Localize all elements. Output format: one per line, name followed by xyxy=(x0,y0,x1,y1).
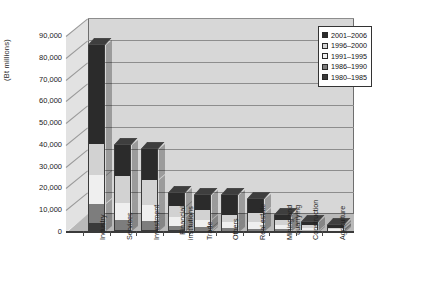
legend-label: 1986–1990 xyxy=(331,62,367,71)
bar-segment xyxy=(141,180,158,205)
x-tick-mark xyxy=(269,231,270,236)
bar-segment xyxy=(88,175,105,203)
x-tick-mark xyxy=(110,231,111,236)
x-tick-label: Investment xyxy=(153,205,161,240)
legend: 2001–20061996–20001991–19951986–19901980… xyxy=(318,26,372,87)
x-tick-mark xyxy=(189,231,190,236)
legend-label: 2001–2006 xyxy=(331,31,367,40)
bar-side-face xyxy=(132,171,138,203)
x-tick-label: Construction xyxy=(312,200,320,240)
legend-swatch xyxy=(322,74,328,80)
bar-side-face xyxy=(106,40,112,144)
y-tick-label: 80,000 xyxy=(18,53,62,62)
y-tick-label: 20,000 xyxy=(18,183,62,192)
y-tick-label: 60,000 xyxy=(18,96,62,105)
legend-item[interactable]: 1980–1985 xyxy=(322,72,367,83)
legend-swatch xyxy=(322,53,328,59)
bar-side-face xyxy=(159,175,165,205)
bar-segment xyxy=(88,45,105,144)
legend-swatch xyxy=(322,64,328,70)
bar-segment xyxy=(168,193,185,207)
y-tick-label: 30,000 xyxy=(18,162,62,171)
bar-segment xyxy=(114,176,131,203)
legend-item[interactable]: 1986–1990 xyxy=(322,62,367,73)
bar-segment xyxy=(88,144,105,176)
x-tick-label: Trade xyxy=(206,221,214,240)
bar-segment xyxy=(194,195,211,210)
x-tick-label: Industry xyxy=(99,214,107,240)
legend-swatch xyxy=(322,32,328,38)
y-tick-label: 90,000 xyxy=(18,31,62,40)
chart-container: (Bt millions) 90,00080,00070,00060,00050… xyxy=(0,0,424,297)
y-axis-title: (Bt millions) xyxy=(2,20,11,100)
bar-segment xyxy=(114,145,131,176)
y-tick-label: 70,000 xyxy=(18,75,62,84)
x-tick-label: Real estate xyxy=(259,204,267,240)
bar-side-face xyxy=(106,170,112,203)
legend-label: 1980–1985 xyxy=(331,73,367,82)
x-tick-label: Financial institutions xyxy=(179,206,196,240)
legend-item[interactable]: 1996–2000 xyxy=(322,41,367,52)
x-tick-label: Services xyxy=(126,212,134,240)
legend-swatch xyxy=(322,43,328,49)
y-tick-label: 40,000 xyxy=(18,140,62,149)
legend-label: 1991–1995 xyxy=(331,52,367,61)
x-tick-mark xyxy=(243,231,244,236)
x-tick-mark xyxy=(163,231,164,236)
x-tick-mark xyxy=(136,231,137,236)
legend-label: 1996–2000 xyxy=(331,41,367,50)
bar-side-face xyxy=(159,144,165,180)
y-tick-label: 50,000 xyxy=(18,118,62,127)
bar-segment xyxy=(194,210,211,219)
x-tick-label: Agriculture xyxy=(339,206,347,240)
bar-industry[interactable] xyxy=(88,45,105,232)
bar-side-face xyxy=(106,139,112,176)
bar-segment xyxy=(141,149,158,179)
x-tick-mark xyxy=(83,231,84,236)
x-tick-label: Mining and quarrying xyxy=(286,205,303,240)
x-tick-mark xyxy=(296,231,297,236)
y-axis-labels: 90,00080,00070,00060,00050,00040,00030,0… xyxy=(18,0,62,297)
x-tick-label: Others xyxy=(232,218,240,240)
bar-side-face xyxy=(132,140,138,176)
y-tick-label: 0 xyxy=(18,227,62,236)
y-tick-label: 10,000 xyxy=(18,205,62,214)
legend-item[interactable]: 1991–1995 xyxy=(322,51,367,62)
x-tick-mark xyxy=(216,231,217,236)
legend-item[interactable]: 2001–2006 xyxy=(322,30,367,41)
bar-segment xyxy=(221,195,238,215)
x-tick-mark xyxy=(322,231,323,236)
